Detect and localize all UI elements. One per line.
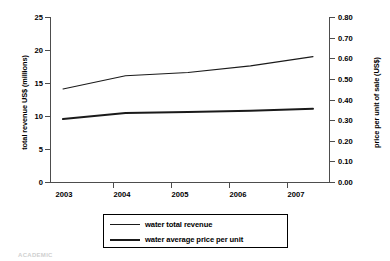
legend-item-label: water average price per unit bbox=[145, 235, 243, 244]
legend-line-swatch-icon bbox=[110, 237, 140, 243]
chart-figure: total revenue US$ (millions) price per u… bbox=[0, 0, 390, 261]
chart-legend: water total revenue water average price … bbox=[103, 214, 288, 248]
legend-item-water-total-revenue: water total revenue bbox=[104, 217, 287, 232]
series-line-water-average-price-per-unit bbox=[63, 109, 313, 119]
legend-item-label: water total revenue bbox=[145, 220, 212, 229]
footer-artifact-text: ACADEMIC bbox=[18, 252, 53, 258]
legend-item-water-average-price-per-unit: water average price per unit bbox=[104, 232, 287, 247]
legend-line-swatch-icon bbox=[110, 222, 140, 228]
series-line-water-total-revenue bbox=[63, 57, 313, 89]
